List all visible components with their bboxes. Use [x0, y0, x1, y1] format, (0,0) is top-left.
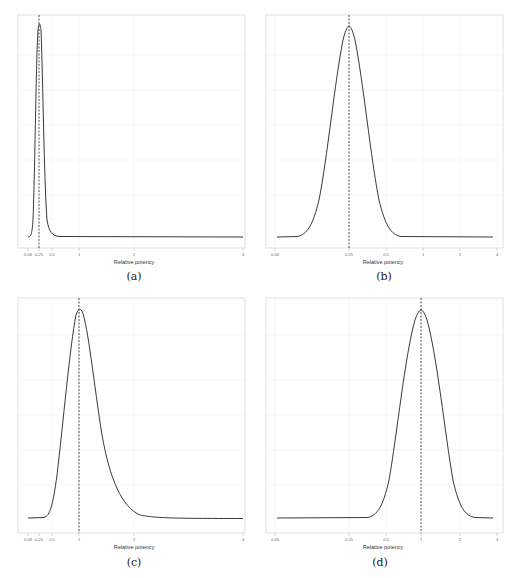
- tick-label: 0.25: [345, 252, 354, 257]
- x-ticks: [28, 533, 243, 536]
- tick-label: 0.25: [345, 537, 354, 542]
- x-axis-label: Relative potency: [114, 259, 155, 265]
- tick-label: 1: [78, 537, 81, 542]
- chart-panel-b: 0.06 0.25 0.5 1 2 4 Relative potency (b): [259, 0, 518, 290]
- tick-label: 0.5: [49, 537, 55, 542]
- tick-label: 4: [242, 252, 245, 257]
- tick-label: 0.06: [24, 537, 33, 542]
- tick-label: 0.5: [383, 252, 389, 257]
- panel-caption: (b): [364, 270, 404, 283]
- density-curve: [277, 26, 493, 237]
- density-curve: [277, 310, 493, 518]
- tick-label: 2: [133, 537, 136, 542]
- grid-lines: [266, 15, 503, 248]
- tick-label: 4: [496, 252, 499, 257]
- tick-label: 0.25: [35, 537, 44, 542]
- tick-label: 0.06: [24, 252, 33, 257]
- tick-label: 0.06: [271, 537, 280, 542]
- tick-label: 0.25: [35, 252, 44, 257]
- density-curve: [28, 24, 243, 237]
- panel-caption: (d): [360, 556, 400, 569]
- tick-label: 2: [459, 252, 462, 257]
- chart-panel-d: 0.06 0.25 0.5 1 2 4 Relative potency (d): [259, 285, 518, 578]
- chart-panel-a: 0.06 0.25 0.5 1 2 4 Relative potency (a): [0, 0, 259, 290]
- chart-c-svg: 0.06 0.25 0.5 1 2 4 Relative potency: [0, 285, 259, 578]
- panel-caption: (c): [114, 556, 154, 569]
- tick-label: 1: [78, 252, 81, 257]
- tick-label: 4: [242, 537, 245, 542]
- chart-b-svg: 0.06 0.25 0.5 1 2 4 Relative potency: [259, 0, 518, 290]
- tick-label: 1: [420, 537, 423, 542]
- density-curve: [28, 309, 243, 518]
- tick-label: 4: [496, 537, 499, 542]
- plot-frame: [266, 15, 503, 248]
- x-ticks: [275, 533, 497, 536]
- x-ticks: [28, 248, 243, 251]
- grid-lines: [18, 298, 245, 533]
- x-axis-label: Relative potency: [114, 544, 155, 550]
- x-axis-label: Relative potency: [363, 259, 404, 265]
- chart-d-svg: 0.06 0.25 0.5 1 2 4 Relative potency: [259, 285, 518, 578]
- tick-label: 0.5: [49, 252, 55, 257]
- tick-label: 0.06: [271, 252, 280, 257]
- grid-lines: [18, 15, 245, 248]
- tick-label: 0.5: [383, 537, 389, 542]
- tick-label: 2: [133, 252, 136, 257]
- tick-label: 1: [422, 252, 425, 257]
- tick-label: 2: [459, 537, 462, 542]
- x-ticks: [275, 248, 497, 251]
- x-axis-label: Relative potency: [363, 544, 404, 550]
- chart-panel-c: 0.06 0.25 0.5 1 2 4 Relative potency (c): [0, 285, 259, 578]
- panel-caption: (a): [114, 270, 154, 283]
- chart-a-svg: 0.06 0.25 0.5 1 2 4 Relative potency: [0, 0, 259, 290]
